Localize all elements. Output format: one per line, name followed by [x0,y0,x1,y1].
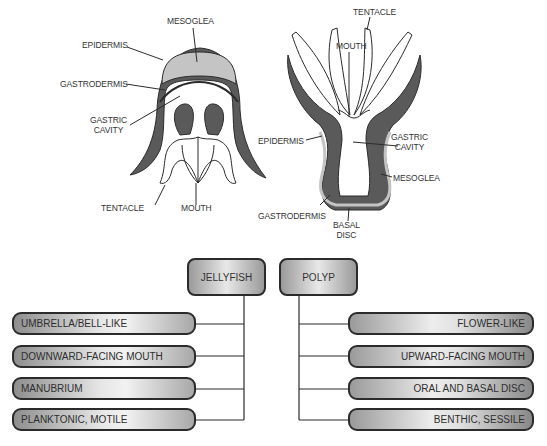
label-polyp-gastrodermis: GASTRODERMIS [258,211,326,221]
label-polyp-basal-disc: BASAL DISC [333,220,360,240]
label-mesoglea: MESOGLEA [167,16,214,26]
jellyfish-illustration [130,48,266,183]
jellyfish-header-box: JELLYFISH [187,258,266,296]
label-gastrodermis: GASTRODERMIS [60,79,128,89]
label-polyp-tentacle: TENTACLE [353,7,396,17]
jellyfish-trait-pill: PLANKTONIC, MOTILE [12,408,196,431]
cnidarian-body-forms-illustration [0,0,547,260]
polyp-trait-pill: BENTHIC, SESSILE [348,408,534,431]
label-polyp-mesoglea: MESOGLEA [393,173,440,183]
polyp-trait-pill: UPWARD-FACING MOUTH [348,345,534,368]
polyp-trait-pill: FLOWER-LIKE [348,312,534,335]
jellyfish-trait-pill: MANUBRIUM [12,377,196,400]
label-epidermis: EPIDERMIS [82,40,128,50]
label-polyp-mouth: MOUTH [336,41,367,51]
label-gastric-cavity: GASTRIC CAVITY [90,115,127,135]
label-polyp-epidermis: EPIDERMIS [258,136,304,146]
polyp-trait-pill: ORAL AND BASAL DISC [348,377,534,400]
polyp-header-box: POLYP [279,258,358,296]
label-mouth: MOUTH [181,203,212,213]
label-tentacle: TENTACLE [101,203,144,213]
jellyfish-trait-pill: DOWNWARD-FACING MOUTH [12,345,196,368]
jellyfish-trait-pill: UMBRELLA/BELL-LIKE [12,312,196,335]
label-polyp-gastric-cavity: GASTRIC CAVITY [391,132,428,152]
